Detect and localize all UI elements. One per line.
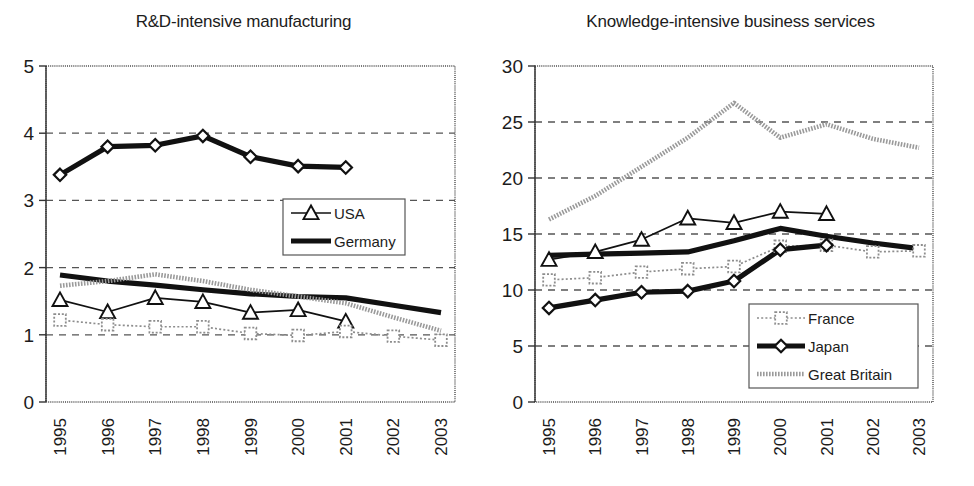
- marker-square: [775, 312, 787, 324]
- legend-label: Japan: [808, 338, 849, 355]
- marker-square: [435, 334, 447, 346]
- y-tick-label: 4: [23, 123, 34, 144]
- y-tick-label: 10: [502, 280, 523, 301]
- x-tick-label: 2002: [384, 418, 403, 456]
- marker-square: [197, 321, 209, 333]
- marker-square: [913, 245, 925, 257]
- y-tick-label: 2: [23, 258, 34, 279]
- marker-square: [728, 261, 740, 273]
- y-tick-label: 0: [512, 392, 523, 413]
- marker-square: [388, 330, 400, 342]
- legend-label: France: [808, 310, 855, 327]
- legend-label: Germany: [334, 233, 396, 250]
- marker-square: [867, 246, 879, 258]
- y-tick-label: 30: [502, 56, 523, 77]
- marker-square: [636, 266, 648, 278]
- x-tick-label: 1995: [540, 418, 559, 456]
- marker-square: [102, 319, 114, 331]
- x-tick-label: 1997: [633, 418, 652, 456]
- x-tick-label: 1996: [586, 418, 605, 456]
- y-tick-label: 15: [502, 224, 523, 245]
- marker-square: [589, 272, 601, 284]
- x-tick-label: 1999: [242, 418, 261, 456]
- chart-panel-right: Knowledge-intensive business services 05…: [487, 0, 974, 486]
- y-tick-label: 25: [502, 112, 523, 133]
- chart-panel-left: R&D-intensive manufacturing 012345199519…: [0, 0, 487, 486]
- y-tick-label: 3: [23, 190, 34, 211]
- x-tick-label: 1996: [99, 418, 118, 456]
- x-tick-label: 1995: [51, 418, 70, 456]
- y-tick-label: 5: [23, 56, 34, 77]
- x-tick-label: 2001: [818, 418, 837, 456]
- chart-legend: FranceJapanGreat Britain: [749, 304, 918, 388]
- x-tick-label: 1998: [679, 418, 698, 456]
- legend-label: USA: [334, 205, 365, 222]
- x-tick-label: 2001: [337, 418, 356, 456]
- figure-root: R&D-intensive manufacturing 012345199519…: [0, 0, 974, 486]
- y-tick-label: 1: [23, 325, 34, 346]
- x-tick-label: 2000: [771, 418, 790, 456]
- marker-square: [149, 321, 161, 333]
- legend-label: Great Britain: [808, 366, 892, 383]
- chart-svg-left: 0123451995199619971998199920002001200220…: [0, 0, 487, 486]
- x-tick-label: 2002: [864, 418, 883, 456]
- marker-square: [543, 274, 555, 286]
- x-tick-label: 2003: [910, 418, 929, 456]
- y-tick-label: 20: [502, 168, 523, 189]
- marker-square: [245, 328, 257, 340]
- y-tick-label: 0: [23, 392, 34, 413]
- y-tick-label: 5: [512, 336, 523, 357]
- marker-square: [292, 330, 304, 342]
- marker-square: [340, 326, 352, 338]
- x-tick-label: 2000: [289, 418, 308, 456]
- x-tick-label: 1997: [146, 418, 165, 456]
- chart-legend: USAGermany: [283, 199, 405, 255]
- chart-svg-right: 0510152025301995199619971998199920002001…: [487, 0, 974, 486]
- x-tick-label: 1998: [194, 418, 213, 456]
- x-tick-label: 1999: [725, 418, 744, 456]
- marker-square: [682, 263, 694, 275]
- marker-square: [54, 314, 66, 326]
- x-tick-label: 2003: [432, 418, 451, 456]
